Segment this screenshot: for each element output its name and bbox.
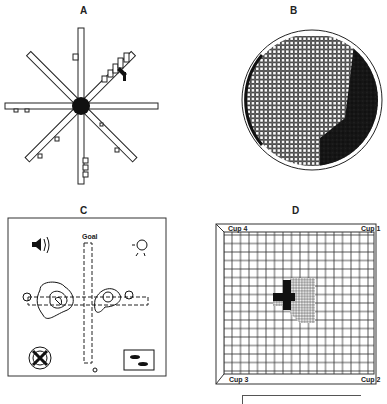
grid-arena-diagram: Cup 4 Cup 1 Cup 3 Cup 2 <box>215 218 387 388</box>
panel-b-label: B <box>290 5 297 16</box>
maze-center-hub <box>72 97 90 115</box>
cup-3-label: Cup 3 <box>229 376 249 384</box>
cup-2-label: Cup 2 <box>361 376 381 384</box>
panel-a-label: A <box>80 5 87 16</box>
plus-maze-contour-diagram: Goal <box>5 215 175 385</box>
cup-4-label: Cup 4 <box>228 225 248 233</box>
rats-picture-icon <box>124 350 154 370</box>
panel-d-label: D <box>292 205 299 216</box>
circular-grid-map <box>225 28 387 178</box>
cup-1-label: Cup 1 <box>361 225 381 233</box>
radial-arm-maze-diagram <box>0 20 170 200</box>
goal-label: Goal <box>82 233 98 240</box>
bottom-frame-edge <box>242 395 361 404</box>
